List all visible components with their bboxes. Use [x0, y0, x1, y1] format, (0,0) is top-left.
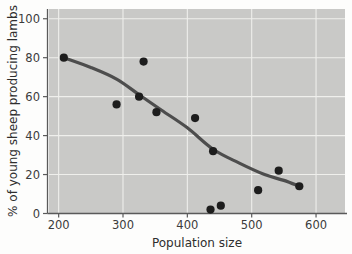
data-point	[275, 167, 283, 175]
data-point	[217, 202, 225, 210]
y-tick-label: 60	[25, 90, 40, 104]
data-point	[60, 54, 68, 62]
y-tick-label: 100	[18, 12, 40, 26]
x-tick-label: 400	[176, 218, 198, 232]
x-axis-tick-labels: 200300400500600	[48, 218, 327, 232]
x-tick-label: 500	[241, 218, 263, 232]
x-tick-label: 300	[112, 218, 134, 232]
y-tick-label: 40	[25, 129, 40, 143]
x-axis-title: Population size	[152, 236, 242, 250]
y-tick-label: 80	[25, 51, 40, 65]
data-point	[191, 114, 199, 122]
x-tick-label: 200	[48, 218, 70, 232]
data-point	[112, 100, 120, 108]
scatter-plot-svg: 020406080100 200300400500600 Population …	[0, 0, 352, 254]
data-point	[209, 147, 217, 155]
data-point	[139, 57, 147, 65]
chart-figure: 020406080100 200300400500600 Population …	[0, 0, 352, 254]
data-point	[152, 108, 160, 116]
data-point	[206, 206, 214, 214]
data-point	[295, 182, 303, 190]
y-axis-tick-marks	[43, 19, 48, 214]
y-tick-label: 0	[33, 207, 40, 221]
data-point	[135, 93, 143, 101]
y-tick-label: 20	[25, 168, 40, 182]
y-axis-tick-labels: 020406080100	[18, 12, 40, 221]
y-axis-title: % of young sheep producing lambs	[6, 5, 20, 217]
x-tick-label: 600	[305, 218, 327, 232]
data-point	[254, 186, 262, 194]
